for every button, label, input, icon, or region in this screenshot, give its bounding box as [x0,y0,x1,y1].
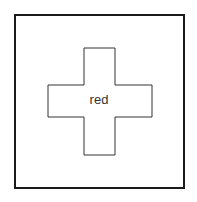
diagram-canvas: red [0,0,197,202]
cross-label: red [90,92,109,107]
